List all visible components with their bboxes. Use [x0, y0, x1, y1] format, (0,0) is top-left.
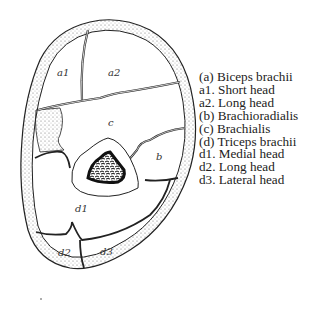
fat-region-left: [36, 108, 65, 152]
label-a1: a1: [57, 67, 69, 78]
label-b: b: [156, 151, 162, 162]
label-c: c: [108, 117, 114, 128]
label-a2: a2: [108, 67, 120, 78]
stray-mark: [40, 298, 42, 300]
label-d3: d3: [100, 246, 113, 257]
arm-cross-section-figure: a1 a2 c b d1 d2 d3 (a) Biceps brachii a1…: [0, 0, 319, 316]
legend: (a) Biceps brachii a1. Short head a2. Lo…: [199, 71, 298, 187]
label-d2: d2: [58, 247, 71, 258]
label-d1: d1: [75, 203, 88, 214]
legend-item: d3. Lateral head: [199, 174, 298, 187]
